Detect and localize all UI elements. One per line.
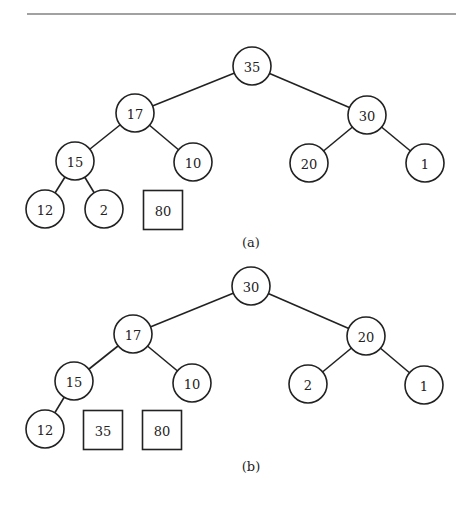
heap-node: 17	[116, 94, 154, 132]
node-label: 80	[154, 424, 171, 439]
heap-node: 2	[85, 190, 123, 228]
node-label: 20	[301, 157, 318, 172]
node-label: 10	[184, 377, 201, 392]
heap-node: 30	[232, 267, 270, 305]
heap-node: 20	[347, 317, 385, 355]
heap-node: 17	[114, 315, 152, 353]
node-label: 1	[421, 157, 429, 172]
removed-node-box: 80	[144, 191, 183, 230]
panel-caption: (a)	[242, 235, 260, 250]
heap-node: 30	[348, 96, 386, 134]
node-label: 30	[359, 109, 376, 124]
node-label: 15	[67, 155, 84, 170]
node-label: 1	[420, 379, 428, 394]
node-label: 80	[155, 204, 172, 219]
heap-node: 2	[289, 365, 327, 403]
heap-node: 10	[173, 364, 211, 402]
heap-node: 12	[26, 190, 64, 228]
heap-node: 10	[174, 143, 212, 181]
node-label: 17	[127, 107, 144, 122]
node-label: 12	[37, 203, 54, 218]
heap-node: 1	[406, 144, 444, 182]
node-label: 30	[243, 280, 260, 295]
node-label: 20	[358, 330, 375, 345]
heap-node: 15	[55, 362, 93, 400]
heap-node: 20	[290, 144, 328, 182]
node-label: 17	[125, 328, 142, 343]
node-label: 2	[304, 378, 312, 393]
heap-diagram: 351730151020112280301720151021123580 (a)…	[0, 0, 472, 505]
heap-node: 15	[56, 142, 94, 180]
heap-node: 1	[405, 366, 443, 404]
node-label: 12	[37, 423, 54, 438]
tree-nodes: 351730151020112280301720151021123580	[26, 47, 444, 450]
removed-node-box: 35	[84, 411, 123, 450]
heap-node: 12	[26, 410, 64, 448]
node-label: 10	[185, 156, 202, 171]
removed-node-box: 80	[143, 411, 182, 450]
node-label: 2	[100, 203, 108, 218]
node-label: 35	[95, 424, 112, 439]
node-label: 35	[244, 60, 261, 75]
panel-caption: (b)	[242, 459, 260, 474]
heap-node: 35	[233, 47, 271, 85]
node-label: 15	[66, 375, 83, 390]
